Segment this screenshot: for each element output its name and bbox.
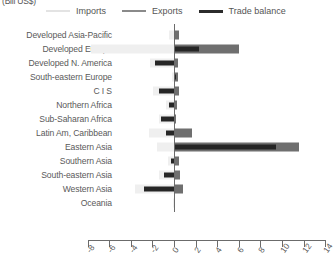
imports-swatch-icon	[46, 10, 70, 12]
x-axis-tick-label: 14	[321, 241, 335, 254]
bar-row: Western Asia	[0, 182, 326, 196]
category-label: Developed Asia-Pacific	[26, 30, 112, 40]
imports-bar	[157, 142, 174, 151]
trade-balance-bar	[159, 88, 174, 93]
units-label: (Bill US$)	[2, 0, 36, 6]
bar-row: Northern Africa	[0, 98, 326, 112]
category-label: Eastern Asia	[65, 142, 112, 152]
legend-item-balance: Trade balance	[199, 6, 286, 16]
imports-bar	[91, 44, 174, 53]
category-label: Northern Africa	[56, 100, 112, 110]
trade-balance-bar	[144, 186, 174, 191]
x-axis-tick-label: -8	[84, 243, 96, 255]
trade-balance-swatch-icon	[199, 10, 223, 13]
chart-legend: Imports Exports Trade balance	[46, 4, 324, 18]
x-axis-tick-label: 12	[300, 241, 314, 254]
trade-balance-bar	[155, 60, 174, 65]
trade-balance-bar	[161, 116, 174, 121]
x-axis-tick-label: 10	[278, 241, 292, 254]
legend-label-imports: Imports	[76, 6, 106, 16]
exports-swatch-icon	[122, 10, 146, 12]
x-axis-tick-label: 2	[192, 245, 203, 255]
x-axis-tick-label: -4	[127, 243, 139, 255]
x-axis-tick-label: 8	[256, 245, 267, 255]
zero-axis-line	[174, 24, 175, 212]
category-label: Southern Asia	[60, 156, 112, 166]
x-axis-tick-label: 6	[235, 245, 246, 255]
trade-balance-bar	[174, 46, 199, 51]
x-axis-tick-label: -2	[148, 243, 160, 255]
legend-label-exports: Exports	[152, 6, 183, 16]
category-label: South-eastern Asia	[41, 170, 112, 180]
bar-row: Eastern Asia	[0, 140, 326, 154]
x-axis-tick-label: -6	[105, 243, 117, 255]
legend-item-imports: Imports	[46, 6, 106, 16]
bar-row: C I S	[0, 84, 326, 98]
x-axis: -8-6-4-202468101214	[0, 240, 326, 274]
trade-balance-bar	[166, 130, 174, 135]
category-label: Western Asia	[63, 184, 112, 194]
x-axis-line	[88, 240, 326, 241]
category-label: Oceania	[81, 198, 112, 208]
bar-row: Developed N. America	[0, 56, 326, 70]
category-label: Developed N. America	[28, 58, 112, 68]
bar-row: Southern Asia	[0, 154, 326, 168]
category-label: C I S	[93, 86, 112, 96]
bar-rows: Developed Asia-PacificDeveloped EuropeDe…	[0, 24, 326, 240]
bar-row: Developed Europe	[0, 42, 326, 56]
bar-row: Sub-Saharan Africa	[0, 112, 326, 126]
trade-balance-bar	[164, 172, 174, 177]
exports-bar	[174, 128, 192, 137]
plot-area: Developed Asia-PacificDeveloped EuropeDe…	[0, 24, 326, 240]
trade-balance-bar	[174, 144, 276, 149]
x-axis-tick-label: 4	[213, 245, 224, 255]
bar-row: Oceania	[0, 196, 326, 210]
x-axis-tick-label: 0	[170, 245, 181, 255]
exports-bar	[174, 184, 183, 193]
bar-row: Latin Am, Caribbean	[0, 126, 326, 140]
bar-row: South-eastern Europe	[0, 70, 326, 84]
category-label: Latin Am, Caribbean	[36, 128, 112, 138]
legend-label-trade-balance: Trade balance	[229, 6, 286, 16]
legend-item-exports: Exports	[122, 6, 183, 16]
category-label: South-eastern Europe	[30, 72, 112, 82]
bar-row: South-eastern Asia	[0, 168, 326, 182]
bar-row: Developed Asia-Pacific	[0, 28, 326, 42]
category-label: Sub-Saharan Africa	[39, 114, 112, 124]
